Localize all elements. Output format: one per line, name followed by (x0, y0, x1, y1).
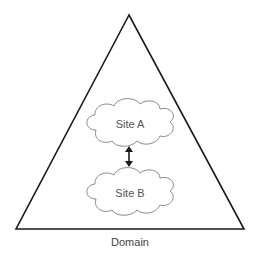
arrow-down-icon (125, 161, 133, 167)
bidirectional-arrow (125, 146, 133, 167)
domain-diagram: Site A Site B Domain (0, 0, 260, 259)
site-b-label: Site B (115, 187, 144, 199)
site-a-label: Site A (116, 118, 145, 130)
domain-label: Domain (111, 236, 149, 248)
arrow-up-icon (125, 146, 133, 152)
site-a-node: Site A (87, 99, 174, 147)
site-b-node: Site B (87, 168, 174, 216)
